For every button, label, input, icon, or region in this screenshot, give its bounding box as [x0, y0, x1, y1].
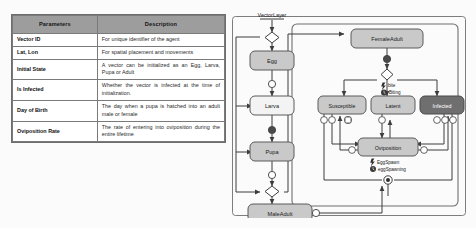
- table-row: Vector ID For unique identifier of the a…: [13, 34, 225, 47]
- decision-diamond-icon: [265, 186, 279, 197]
- adult-region-frame: [292, 24, 458, 206]
- parameter-description: For spatial placement and movements: [97, 46, 224, 59]
- event-bite: bite: [381, 82, 396, 90]
- state-node-egg[interactable]: Egg: [250, 51, 294, 70]
- guard-square-icon: [345, 117, 351, 123]
- column-header-parameters: Parameters: [13, 16, 98, 34]
- vector-lifecycle-diagram: VectorLayer: [232, 10, 468, 218]
- transition-circle-icon: [434, 117, 441, 124]
- parameter-name: Oviposition Rate: [13, 121, 98, 142]
- transition-circle-icon: [421, 147, 428, 154]
- state-node-susceptible[interactable]: Susceptible: [318, 96, 366, 114]
- parameter-description: For unique identifier of the agent: [97, 34, 224, 47]
- table-row: Is Infected Whether the vector is infect…: [13, 80, 225, 101]
- parameter-description: Whether the vector is infected at the ti…: [97, 80, 224, 101]
- transition-circle-icon: [383, 55, 390, 62]
- bolt-icon: [381, 82, 386, 90]
- bolt-icon: [370, 159, 375, 167]
- event-biting: Biting: [381, 90, 401, 96]
- decision-diamond-icon: [265, 32, 279, 43]
- transition-circle-icon: [268, 126, 275, 133]
- transition-circle-icon: [329, 117, 336, 124]
- event-biting-label: Biting: [389, 90, 401, 95]
- transition-circle-icon: [312, 209, 319, 216]
- state-node-latent-label: Latent: [386, 103, 401, 109]
- parameter-name: Day of Birth: [13, 100, 98, 121]
- transition-circle-icon: [349, 147, 356, 154]
- table-row: Lat, Lon For spatial placement and movem…: [13, 46, 225, 59]
- state-node-male-adult[interactable]: MaleAdult: [248, 204, 312, 218]
- state-node-susceptible-label: Susceptible: [329, 103, 356, 109]
- event-egg-spawning: eggSpawning: [370, 166, 406, 172]
- event-bite-label: bite: [388, 83, 396, 88]
- transition-circle-icon: [450, 117, 457, 124]
- state-node-infected-label: Infected: [432, 103, 451, 109]
- parameter-name: Initial State: [13, 59, 98, 80]
- state-node-oviposition[interactable]: Oviposition: [358, 138, 418, 156]
- state-node-larva[interactable]: Larva: [250, 96, 294, 115]
- transition-circle-icon: [321, 117, 328, 124]
- state-node-egg-label: Egg: [267, 58, 277, 64]
- state-node-pupa-label: Pupa: [265, 149, 279, 155]
- event-egg-spawn: EggSpawn: [370, 159, 399, 167]
- parameter-name: Is Infected: [13, 80, 98, 101]
- parameter-name: Lat, Lon: [13, 46, 98, 59]
- parameter-description: The day when a pupa is hatched into an a…: [97, 100, 224, 121]
- table-row: Day of Birth The day when a pupa is hatc…: [13, 100, 225, 121]
- table-row: Oviposition Rate The rate of entering in…: [13, 121, 225, 142]
- state-node-pupa[interactable]: Pupa: [250, 142, 294, 161]
- event-egg-spawn-label: EggSpawn: [377, 160, 400, 165]
- transition-circle-icon: [268, 171, 275, 178]
- parameters-table: Parameters Description Vector ID For uni…: [11, 14, 226, 143]
- state-node-larva-label: Larva: [265, 103, 280, 109]
- diagram-title: VectorLayer: [258, 12, 287, 18]
- table-row: Initial State A vector can be initialize…: [13, 59, 225, 80]
- parameter-description: The rate of entering into oviposition du…: [97, 121, 224, 142]
- figure-root: Parameters Description Vector ID For uni…: [0, 0, 476, 228]
- event-egg-spawning-label: eggSpawning: [378, 167, 406, 172]
- state-node-oviposition-label: Oviposition: [375, 145, 402, 151]
- decision-diamond-icon: [381, 69, 393, 80]
- table-header-row: Parameters Description: [13, 16, 225, 34]
- transition-circle-icon: [442, 117, 449, 124]
- state-node-female-adult-label: FemaleAdult: [371, 36, 403, 42]
- state-node-latent[interactable]: Latent: [371, 96, 415, 114]
- state-node-female-adult[interactable]: FemaleAdult: [351, 29, 423, 48]
- transition-circle-icon: [268, 80, 275, 87]
- state-node-male-adult-label: MaleAdult: [268, 211, 293, 217]
- diagram-frame: [233, 17, 466, 216]
- parameter-name: Vector ID: [13, 34, 98, 47]
- state-node-infected[interactable]: Infected: [420, 96, 464, 114]
- transition-circle-icon: [379, 117, 386, 124]
- column-header-description: Description: [97, 16, 224, 34]
- parameter-description: A vector can be initialized as an Egg, L…: [97, 59, 224, 80]
